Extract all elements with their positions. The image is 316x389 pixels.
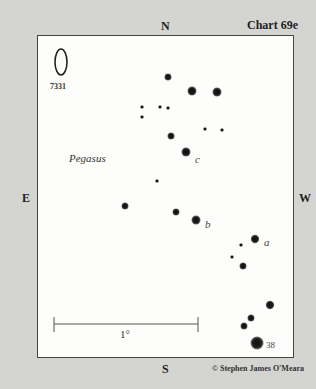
stars-group [122,74,275,350]
star-icon [266,301,274,309]
constellation-label: Pegasus [69,152,106,164]
star-icon [140,115,144,119]
star-icon [230,255,234,259]
star-icon [240,263,247,270]
star-icon [239,243,243,247]
star-icon [122,203,129,210]
scale-bar-label: 1° [120,328,130,340]
star-icon [140,105,144,109]
star-icon [158,105,162,109]
star-field [0,0,316,389]
star-icon [251,337,264,350]
star-icon [220,128,224,132]
star-icon [192,216,201,225]
star-icon [182,148,191,157]
star-label: b [205,218,211,230]
star-label: c [195,153,200,165]
galaxy-label: 7331 [50,82,66,91]
star-icon [203,127,207,131]
star-icon [248,315,255,322]
star-icon [166,106,170,110]
star-icon [241,323,248,330]
star-icon [173,209,180,216]
galaxy-ngc-7331-icon [55,49,67,75]
star-icon [168,133,175,140]
star-icon [165,74,172,81]
star-label: 38 [266,340,275,350]
star-icon [155,179,159,183]
star-icon [251,235,259,243]
star-label: a [264,236,270,248]
star-icon [188,87,197,96]
star-icon [213,88,222,97]
copyright-notice: © Stephen James O'Meara [212,364,304,373]
